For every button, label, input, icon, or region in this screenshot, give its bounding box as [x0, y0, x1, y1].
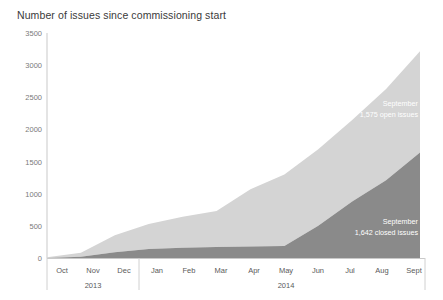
x-tick-apr: Apr [248, 266, 260, 275]
y-tick-500: 500 [29, 222, 42, 231]
y-tick-3500: 3500 [25, 29, 42, 38]
open-annotation-line2: 1,575 open issues [360, 110, 419, 119]
area-chart-svg: 3500 3000 2500 2000 1500 1000 500 0 Oct … [0, 0, 443, 300]
year-label-2013: 2013 [85, 281, 102, 290]
x-axis-group: Oct Nov Dec Jan Feb Mar Apr May Jun Jul … [47, 258, 425, 290]
x-tick-jan: Jan [151, 266, 163, 275]
y-axis-group: 3500 3000 2500 2000 1500 1000 500 0 [25, 29, 47, 263]
y-tick-1500: 1500 [25, 158, 42, 167]
x-tick-aug: Aug [375, 266, 388, 275]
year-label-2014: 2014 [278, 281, 295, 290]
plot-area [47, 51, 420, 258]
x-tick-jun: Jun [312, 266, 324, 275]
y-tick-0: 0 [38, 254, 42, 263]
x-tick-feb: Feb [183, 266, 196, 275]
closed-annotation-line1: September [383, 217, 419, 226]
x-tick-sept: Sept [406, 266, 422, 275]
closed-annotation-line2: 1,642 closed issues [355, 228, 419, 237]
y-tick-1000: 1000 [25, 190, 42, 199]
y-tick-2500: 2500 [25, 93, 42, 102]
y-tick-3000: 3000 [25, 61, 42, 70]
open-annotation-line1: September [383, 99, 419, 108]
x-tick-may: May [279, 266, 293, 275]
x-tick-mar: Mar [215, 266, 228, 275]
x-tick-dec: Dec [117, 266, 131, 275]
x-tick-nov: Nov [86, 266, 100, 275]
x-tick-oct: Oct [56, 266, 69, 275]
chart-container: Number of issues since commissioning sta… [0, 0, 443, 300]
y-tick-2000: 2000 [25, 125, 42, 134]
x-tick-jul: Jul [345, 266, 355, 275]
